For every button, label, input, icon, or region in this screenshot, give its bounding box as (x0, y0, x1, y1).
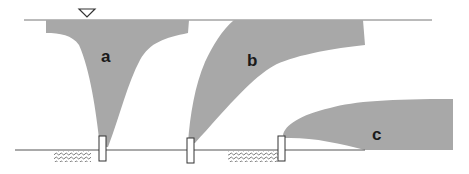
plume-c-label: c (372, 125, 381, 144)
well-a (99, 136, 106, 161)
hatched-zone-2 (228, 151, 278, 162)
plume-c (283, 99, 453, 150)
plume-a (46, 20, 189, 147)
plume-diagram: a b c (0, 0, 469, 174)
hatched-zone-1 (54, 151, 91, 162)
plume-a-label: a (101, 47, 111, 66)
well-c (278, 136, 285, 161)
water-table-icon (79, 9, 95, 17)
plume-b-label: b (247, 51, 257, 70)
well-b (187, 138, 194, 163)
